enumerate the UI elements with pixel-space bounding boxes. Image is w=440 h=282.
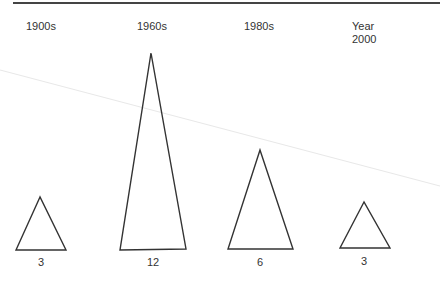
triangle-1960s: [120, 53, 186, 250]
label-year-line2: 2000: [352, 33, 376, 46]
value-1960s: 12: [138, 256, 168, 268]
label-1980s: 1980s: [244, 20, 274, 33]
value-1980s: 6: [245, 256, 275, 268]
label-year-line1: Year: [352, 20, 376, 33]
value-2000: 3: [349, 255, 379, 267]
label-1900s: 1900s: [26, 20, 56, 33]
triangle-2000: [340, 202, 390, 248]
triangle-1980s: [228, 150, 293, 249]
label-year-2000: Year 2000: [352, 20, 376, 46]
triangle-1900s: [16, 197, 66, 250]
value-1900s: 3: [26, 256, 56, 268]
label-1960s: 1960s: [137, 20, 167, 33]
faint-diagonal-line: [0, 70, 440, 186]
